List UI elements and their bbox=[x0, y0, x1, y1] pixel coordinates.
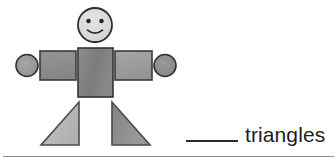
arm-right-rectangle bbox=[115, 51, 152, 80]
head-circle bbox=[78, 8, 112, 42]
leg-left-triangle bbox=[41, 102, 79, 145]
shape-person-figure bbox=[0, 0, 200, 152]
arm-left-rectangle bbox=[40, 51, 76, 80]
leg-right-triangle bbox=[112, 102, 150, 145]
torso-rectangle bbox=[78, 48, 113, 97]
answer-label: triangles bbox=[245, 123, 325, 146]
bottom-divider bbox=[3, 156, 334, 157]
hand-right-circle bbox=[154, 55, 176, 77]
answer-prompt: triangles bbox=[186, 116, 336, 146]
hand-left-circle bbox=[16, 55, 38, 77]
answer-blank-input[interactable] bbox=[186, 140, 238, 142]
eye-left-icon bbox=[86, 19, 91, 24]
worksheet-page: triangles bbox=[0, 0, 336, 163]
eye-right-icon bbox=[99, 19, 104, 24]
